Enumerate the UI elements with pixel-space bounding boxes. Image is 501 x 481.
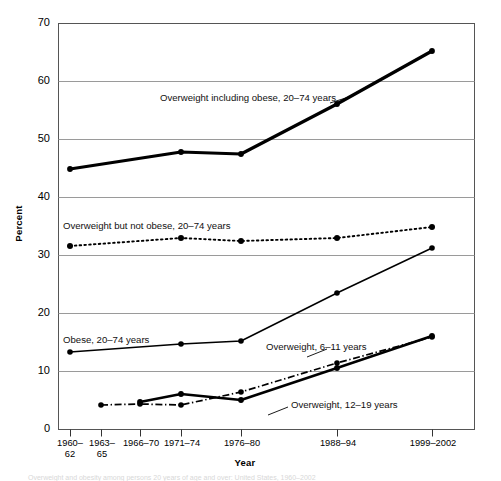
x-tick-label-1971-74: 1971–74 — [155, 438, 209, 449]
x-tick-line1: 1976–80 — [224, 438, 260, 448]
leader-overweight-12-19 — [268, 407, 288, 415]
x-tick-line1: 1963– — [89, 438, 115, 448]
x-tick-line2: 65 — [97, 449, 107, 459]
x-tick-label-1976-80: 1976–80 — [215, 438, 269, 449]
x-tick-line1: 1971–74 — [164, 438, 200, 448]
x-tick-line1: 1999–2002 — [410, 438, 457, 448]
x-tick-line2: 62 — [65, 449, 75, 459]
chart-footnote: Overweight and obesity among persons 20 … — [28, 474, 316, 481]
x-tick-label-1988-94: 1988–94 — [311, 438, 365, 449]
overweight-not-obese-label: Overweight but not obese, 20–74 years — [63, 220, 230, 231]
obese-label: Obese, 20–74 years — [63, 334, 149, 345]
series-overweight-including-obese — [67, 48, 435, 172]
overweight-including-obese-label: Overweight including obese, 20–74 years — [160, 92, 336, 103]
x-tick-line1: 1966–70 — [123, 438, 159, 448]
x-axis-title: Year — [215, 457, 275, 468]
chart-root: Percent 70 60 50 40 30 20 10 0 — [0, 0, 501, 481]
x-tick-label-1999-2002: 1999–2002 — [400, 438, 466, 449]
overweight-6-11-label: Overweight, 6–11 years — [266, 341, 367, 352]
x-axis-ticks — [71, 430, 433, 437]
plot-canvas — [0, 0, 501, 481]
overweight-12-19-label: Overweight, 12–19 years — [291, 399, 398, 410]
x-tick-line1: 1988–94 — [320, 438, 356, 448]
